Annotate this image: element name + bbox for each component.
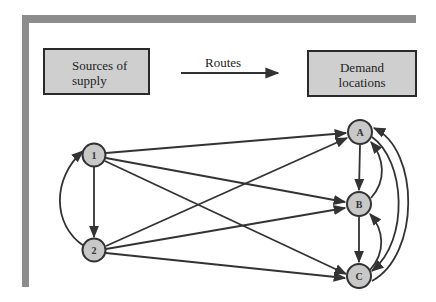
node-1: 1 — [83, 144, 106, 167]
edge-2-B — [106, 208, 345, 249]
node-2: 2 — [83, 239, 106, 262]
edge-B-A — [371, 142, 382, 198]
node-C-label: C — [355, 271, 362, 282]
edge-1-A — [106, 133, 346, 153]
node-2-label: 2 — [92, 245, 97, 256]
edge-1-B — [106, 158, 345, 202]
node-B: B — [347, 192, 371, 216]
node-A: A — [348, 120, 372, 144]
edge-A-B — [359, 145, 360, 190]
node-1-label: 1 — [92, 150, 97, 161]
edge-A-C — [372, 137, 399, 271]
edge-2-1 — [60, 151, 84, 246]
edge-C-B — [370, 214, 381, 270]
node-A-label: A — [356, 127, 364, 138]
node-B-label: B — [356, 199, 363, 210]
edge-2-A — [106, 138, 347, 246]
node-C: C — [347, 264, 371, 288]
network-diagram: 1 2 A B C — [0, 0, 436, 302]
